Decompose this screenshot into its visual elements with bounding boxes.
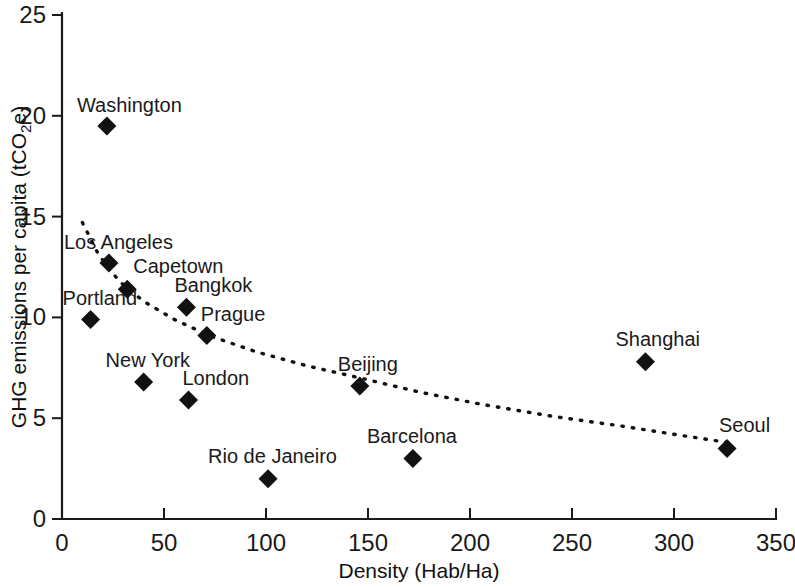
marker-diamond [636, 352, 655, 371]
marker-diamond [718, 439, 737, 458]
marker-diamond [99, 253, 118, 272]
marker-diamond [197, 326, 216, 345]
x-tick-label-250: 250 [552, 529, 592, 556]
y-axis-title: GHG emissions per capita (tCO2e) [7, 106, 34, 428]
marker-diamond [81, 310, 100, 329]
point-label: Barcelona [367, 425, 458, 447]
point-label: Shanghai [615, 328, 700, 350]
marker-diamond [97, 116, 116, 135]
point-label: New York [106, 349, 191, 371]
data-point-new-york: New York [106, 349, 191, 392]
point-label: London [182, 367, 249, 389]
scatter-chart: 0510152025 050100150200250300350 Washing… [0, 0, 795, 587]
y-tick-label-25: 25 [19, 1, 46, 28]
x-tick-label-350: 350 [756, 529, 795, 556]
marker-diamond [403, 449, 422, 468]
point-label: Washington [77, 94, 182, 116]
x-tick-label-100: 100 [246, 529, 286, 556]
y-axis-title-tail: e) [7, 106, 30, 125]
data-point-beijing: Beijing [338, 353, 398, 396]
axis-titles: Density (Hab/Ha)GHG emissions per capita… [7, 106, 500, 582]
marker-diamond [134, 372, 153, 391]
data-point-rio-de-janeiro: Rio de Janeiro [208, 445, 337, 489]
data-point-washington: Washington [77, 94, 182, 136]
marker-diamond [259, 469, 278, 488]
x-tick-label-150: 150 [348, 529, 388, 556]
point-label: Prague [201, 303, 266, 325]
x-tick-label-50: 50 [151, 529, 178, 556]
data-point-london: London [179, 367, 249, 410]
marker-diamond [177, 298, 196, 317]
point-label: Los Angeles [64, 231, 173, 253]
point-label: Seoul [719, 414, 770, 436]
point-label: Portland [63, 287, 138, 309]
x-tick-label-200: 200 [450, 529, 490, 556]
x-axis-ticks: 050100150200250300350 [55, 508, 795, 556]
x-tick-label-0: 0 [55, 529, 68, 556]
y-axis-title-main: GHG emissions per capita (tCO [7, 133, 30, 428]
point-label: Beijing [338, 353, 398, 375]
plot-area: 0510152025 050100150200250300350 Washing… [0, 0, 795, 587]
y-tick-label-0: 0 [33, 505, 46, 532]
data-point-barcelona: Barcelona [367, 425, 458, 469]
data-point-shanghai: Shanghai [615, 328, 700, 372]
point-label: Rio de Janeiro [208, 445, 337, 467]
x-axis-title: Density (Hab/Ha) [338, 559, 499, 582]
data-point-prague: Prague [197, 303, 265, 346]
data-point-portland: Portland [63, 287, 138, 329]
marker-diamond [179, 391, 198, 410]
x-tick-label-300: 300 [654, 529, 694, 556]
y-tick-label-5: 5 [33, 404, 46, 431]
point-label: Bangkok [174, 274, 253, 296]
data-points-group: WashingtonLos AngelesCapetownPortlandBan… [63, 94, 771, 488]
data-point-seoul: Seoul [718, 414, 771, 458]
y-axis-title-subscript: 2 [17, 125, 34, 133]
